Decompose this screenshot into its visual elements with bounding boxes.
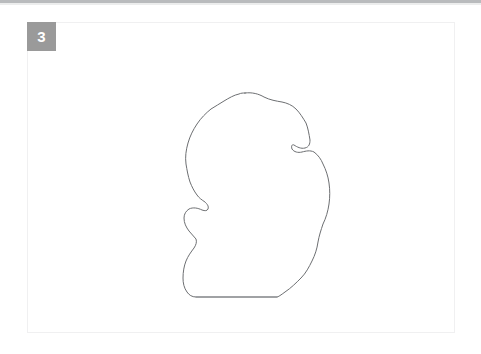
- figure-card: [27, 22, 455, 333]
- panel-index-badge: 3: [27, 22, 56, 51]
- top-strip-fade: [0, 3, 481, 5]
- figure-page: 3: [0, 0, 481, 354]
